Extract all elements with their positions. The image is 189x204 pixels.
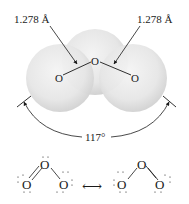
atom-label-left: O [55,73,63,84]
bond-length-label-right: 1.278 Å [137,14,172,25]
angle-tick-right [163,96,176,107]
bond-angle-label: 117° [85,132,106,143]
angle-tick-left [17,96,31,107]
space-filling-model [26,29,167,112]
res1-atom-left: O [22,178,31,191]
atom-label-right: O [131,73,139,84]
res1-atom-top: O [40,158,49,171]
res1-atom-right: O [59,178,68,191]
res2-atom-top: O [137,158,146,171]
res2-atom-left: O [117,178,126,191]
atom-label-center: O [91,56,99,67]
res2-atom-right: O [155,178,164,191]
bond-length-label-left: 1.278 Å [14,14,49,25]
resonance-arrow-icon: ⟷ [82,180,102,194]
ozone-diagram [0,0,189,204]
